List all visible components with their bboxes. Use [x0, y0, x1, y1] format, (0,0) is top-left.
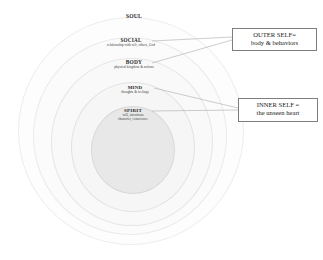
- callout-outer-self: OUTER SELF= body & behaviors: [232, 28, 317, 51]
- layer-label-mind: MIND thoughts & feelings: [121, 85, 149, 94]
- callout-inner-self-line1: INNER SELF =: [243, 101, 313, 109]
- layer-label-body: BODY physical kingdom & actions: [114, 60, 153, 70]
- layer-title-soul: SOUL: [126, 14, 142, 20]
- layer-subtitle-social: relationship with self, others, God: [107, 44, 155, 47]
- callout-inner-self: INNER SELF = the unseen heart: [238, 98, 318, 122]
- layer-subtitle-body: physical kingdom & actions: [114, 66, 153, 69]
- callout-outer-self-line1: OUTER SELF=: [237, 31, 312, 39]
- callout-inner-self-line2: the unseen heart: [243, 109, 313, 117]
- layer-label-social: SOCIAL relationship with self, others, G…: [107, 38, 155, 48]
- layer-label-spirit: SPIRIT will, intentions character, consc…: [118, 108, 148, 122]
- callout-outer-self-line2: body & behaviors: [237, 39, 312, 47]
- layer-subtitle-mind: thoughts & feelings: [121, 91, 149, 94]
- layer-subtitle2-spirit: character, conscience: [118, 118, 148, 121]
- diagram-canvas: SOUL SOCIAL relationship with self, othe…: [0, 0, 323, 260]
- layer-label-soul: SOUL: [126, 14, 142, 21]
